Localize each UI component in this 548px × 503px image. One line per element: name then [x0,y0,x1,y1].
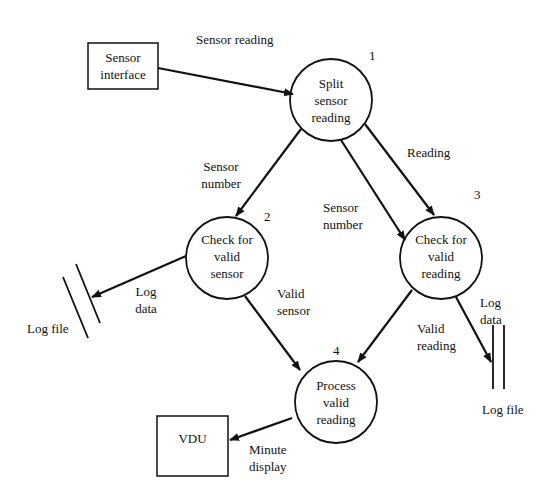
process-3-number: 3 [474,187,481,203]
process-3-label: Check for valid reading [401,231,481,282]
flow-minute-display-line1: Minute [249,441,287,458]
process-4-label: Process valid reading [296,377,376,428]
process-2-line3: sensor [187,265,267,282]
process-1-number: 1 [369,48,376,64]
flow-sensor-number-b-line2: number [323,216,363,233]
process-3-line2: valid [401,248,481,265]
flow-log-data-right-line2: data [480,311,502,328]
process-2-line2: valid [187,248,267,265]
process-3-line1: Check for [401,231,481,248]
flow-reading-label: Reading [407,144,450,161]
flow-valid-reading-arrow [358,290,412,362]
process-1-line2: sensor [291,92,371,109]
flow-reading-arrow [365,124,434,215]
flow-valid-reading-line2: reading [417,337,456,354]
flow-minute-display-line2: display [249,458,287,475]
process-1-line1: Split [291,75,371,92]
flow-sensor-reading-label: Sensor reading [196,31,274,48]
process-2-line1: Check for [187,231,267,248]
flow-sensor-number-b-line1: Sensor [323,199,363,216]
flow-log-data-left-label: Log data [131,283,161,317]
sensor-interface-line2: interface [88,66,158,83]
sensor-interface-label: Sensor interface [88,49,158,83]
process-1-label: Split sensor reading [291,75,371,126]
process-4-line2: valid [296,394,376,411]
vdu-label: VDU [157,430,228,447]
flow-valid-sensor-line1: Valid [277,285,310,302]
flow-sensor-reading-arrow [158,68,293,94]
flow-valid-sensor-line2: sensor [277,302,310,319]
process-4-number: 4 [333,343,340,359]
flow-valid-reading-line1: Valid [417,320,456,337]
log-file-right-store [493,325,504,389]
flow-log-data-left-line2: data [131,300,161,317]
flow-valid-reading-label: Valid reading [417,320,456,354]
process-2-number: 2 [264,209,271,225]
process-1-line3: reading [291,109,371,126]
log-file-right-label: Log file [482,401,524,418]
flow-minute-display-arrow [230,418,292,440]
flow-log-data-left-line1: Log [131,283,161,300]
process-2-label: Check for valid sensor [187,231,267,282]
flow-sensor-number-a-line1: Sensor [196,158,246,175]
flow-sensor-number-a-line2: number [196,175,246,192]
flow-log-data-right-label: Log data [480,294,502,328]
sensor-interface-line1: Sensor [88,49,158,66]
log-file-left-label: Log file [27,320,69,337]
process-3-line3: reading [401,265,481,282]
flow-minute-display-label: Minute display [249,441,287,475]
flow-sensor-number-a-label: Sensor number [196,158,246,192]
flow-sensor-number-b-label: Sensor number [323,199,363,233]
flow-log-data-right-line1: Log [480,294,502,311]
process-4-line3: reading [296,411,376,428]
process-4-line1: Process [296,377,376,394]
flow-valid-sensor-label: Valid sensor [277,285,310,319]
